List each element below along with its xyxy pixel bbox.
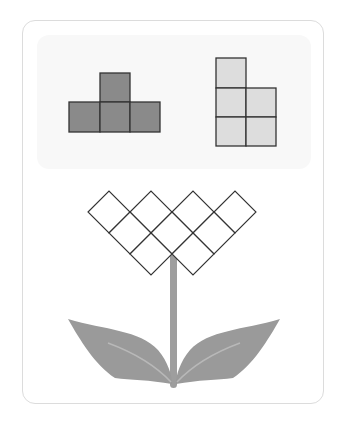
left-leaf	[68, 319, 172, 384]
puzzle-illustration	[0, 0, 345, 423]
flower-stem	[170, 252, 177, 388]
light-p-piece	[216, 58, 276, 146]
dark-t-piece	[69, 73, 160, 132]
right-leaf	[176, 319, 280, 384]
